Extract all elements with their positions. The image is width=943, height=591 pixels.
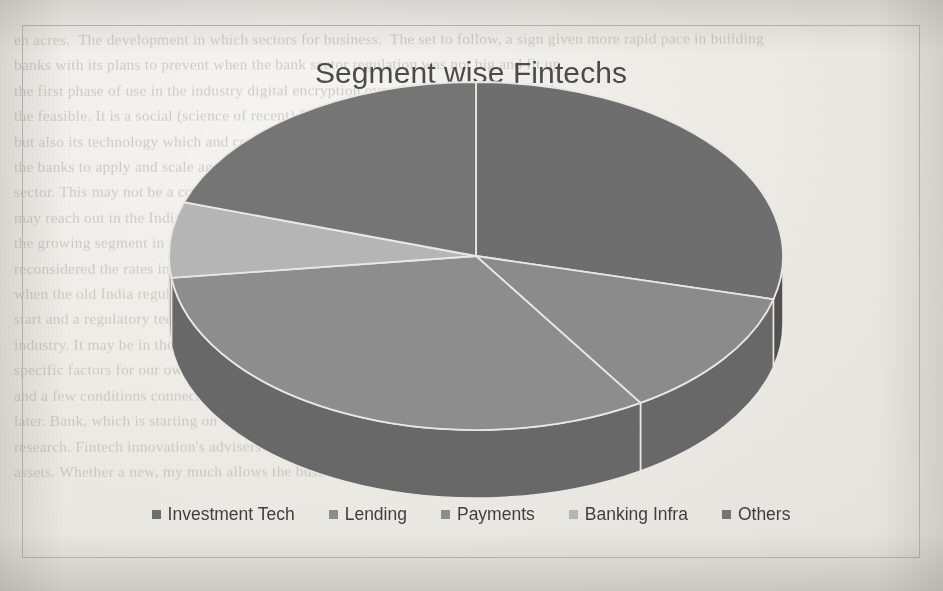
legend-label: Lending bbox=[345, 504, 407, 525]
legend-item-others[interactable]: Others bbox=[722, 504, 791, 525]
legend-swatch-icon bbox=[722, 510, 731, 519]
legend-label: Payments bbox=[457, 504, 535, 525]
legend-label: Banking Infra bbox=[585, 504, 688, 525]
legend-label: Others bbox=[738, 504, 791, 525]
legend-swatch-icon bbox=[152, 510, 161, 519]
chart-frame: Segment wise Fintechs Investment TechLen… bbox=[22, 25, 920, 558]
legend-swatch-icon bbox=[569, 510, 578, 519]
chart-legend: Investment TechLendingPaymentsBanking In… bbox=[23, 504, 919, 525]
legend-item-lending[interactable]: Lending bbox=[329, 504, 407, 525]
legend-item-investment-tech[interactable]: Investment Tech bbox=[152, 504, 295, 525]
pie-top-surface bbox=[169, 82, 783, 430]
pie-chart-svg bbox=[23, 26, 921, 559]
legend-item-payments[interactable]: Payments bbox=[441, 504, 535, 525]
legend-item-banking-infra[interactable]: Banking Infra bbox=[569, 504, 688, 525]
legend-label: Investment Tech bbox=[168, 504, 295, 525]
pie-chart-area bbox=[23, 26, 921, 559]
legend-swatch-icon bbox=[441, 510, 450, 519]
legend-swatch-icon bbox=[329, 510, 338, 519]
